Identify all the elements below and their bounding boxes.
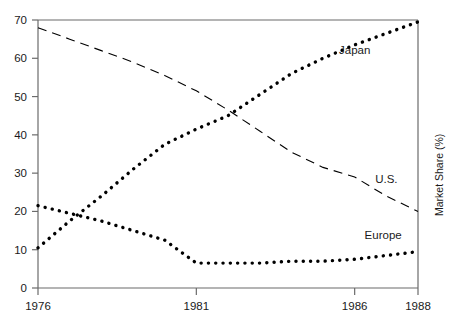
x-tick-label: 1986 [342, 300, 368, 312]
y-tick-label: 0 [21, 282, 27, 294]
x-axis-ticks: 1976198119861988 [25, 288, 431, 312]
y-tick-label: 50 [14, 91, 27, 103]
plot-frame [38, 20, 418, 288]
y-axis-title: Market Share (%) [433, 134, 445, 216]
x-tick-label: 1981 [184, 300, 210, 312]
series-label-japan: Japan [339, 44, 370, 56]
series-line-europe [38, 206, 418, 263]
y-tick-label: 70 [14, 14, 27, 26]
y-tick-label: 20 [14, 205, 27, 217]
x-tick-label: 1988 [405, 300, 431, 312]
x-tick-label: 1976 [25, 300, 51, 312]
y-tick-label: 10 [14, 244, 27, 256]
series-annotations: JapanU.S.Europe [339, 44, 402, 241]
y-tick-label: 30 [14, 167, 27, 179]
y-tick-label: 60 [14, 52, 27, 64]
series-layer [38, 22, 418, 263]
chart-container: 010203040506070 1976198119861988 JapanU.… [0, 0, 454, 324]
y-axis-ticks: 010203040506070 [14, 14, 38, 294]
series-label-europe: Europe [365, 229, 402, 241]
market-share-line-chart: 010203040506070 1976198119861988 JapanU.… [0, 0, 454, 324]
series-label-us: U.S. [375, 173, 397, 185]
y-tick-label: 40 [14, 129, 27, 141]
